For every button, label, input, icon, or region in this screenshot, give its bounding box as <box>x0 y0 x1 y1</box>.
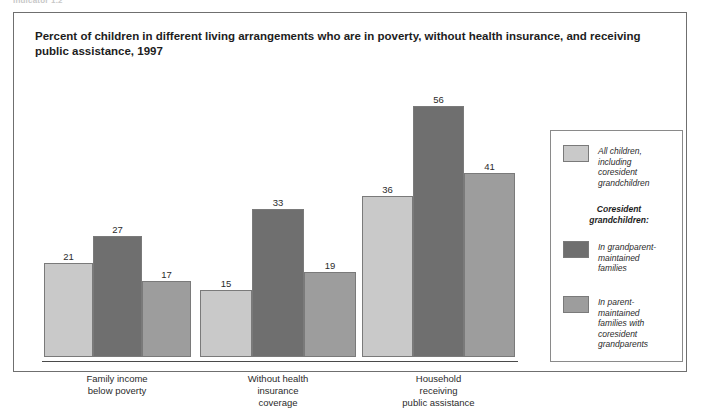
legend-swatch-icon <box>563 296 589 313</box>
bar-parent-maintained-g2: 19 <box>304 272 356 357</box>
bar-value-label: 56 <box>433 94 444 105</box>
legend-swatch-icon <box>563 145 589 162</box>
bar-all-children-g3: 36 <box>362 196 413 357</box>
bar-value-label: 19 <box>325 260 336 271</box>
axis-baseline <box>42 361 518 362</box>
bar-grandparent-maintained-g2: 33 <box>252 209 304 357</box>
group-label-family-income: Family income below poverty <box>86 373 147 397</box>
bar-value-label: 15 <box>221 278 232 289</box>
bar-value-label: 41 <box>484 161 495 172</box>
group-label-public-assistance: Household receiving public assistance <box>400 373 477 409</box>
bar-all-children-g1: 21 <box>44 263 93 357</box>
bar-value-label: 21 <box>63 251 74 262</box>
bar-group-health-insurance: 15 33 19 Without health insurance covera… <box>200 90 356 357</box>
legend-item-label: All children, including coresident grand… <box>598 145 650 188</box>
figure-frame: Percent of children in different living … <box>13 12 687 372</box>
legend-section-heading: Coresident grandchildren: <box>563 204 675 226</box>
bar-grandparent-maintained-g3: 56 <box>413 106 464 357</box>
bar-all-children-g2: 15 <box>200 290 252 357</box>
plot-area: 21 27 17 Family income below poverty 15 … <box>30 83 530 368</box>
bar-value-label: 33 <box>273 197 284 208</box>
legend-item-label: In parent- maintained families with core… <box>598 296 648 350</box>
legend-item-parent-maintained: In parent- maintained families with core… <box>563 296 675 350</box>
bar-parent-maintained-g1: 17 <box>142 281 191 357</box>
bar-value-label: 27 <box>112 224 123 235</box>
bar-value-label: 17 <box>161 269 172 280</box>
running-head: Indicator 1.2 <box>13 0 63 3</box>
bar-value-label: 36 <box>382 184 393 195</box>
legend-item-label: In grandparent- maintained families <box>598 241 656 274</box>
group-label-health-insurance: Without health insurance coverage <box>239 373 317 409</box>
bar-grandparent-maintained-g1: 27 <box>93 236 142 357</box>
bar-group-public-assistance: 36 56 41 Household receiving public assi… <box>362 90 515 357</box>
chart-legend: All children, including coresident grand… <box>550 130 683 362</box>
chart-title: Percent of children in different living … <box>35 29 675 59</box>
legend-swatch-icon <box>563 241 589 258</box>
bar-group-family-income: 21 27 17 Family income below poverty <box>44 90 190 357</box>
legend-item-all-children: All children, including coresident grand… <box>563 145 675 188</box>
legend-item-grandparent-maintained: In grandparent- maintained families <box>563 241 675 274</box>
bar-parent-maintained-g3: 41 <box>464 173 515 357</box>
